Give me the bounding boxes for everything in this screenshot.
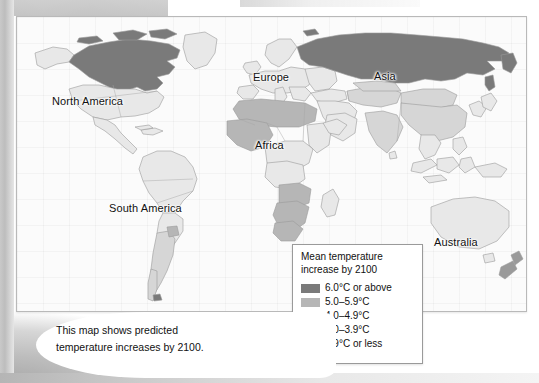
figure-caption: This map shows predicted temperature inc… [56, 322, 306, 356]
region-iberia [237, 85, 259, 99]
figure-stage: .land { stroke:#9b9b9b; stroke-width:.6;… [0, 0, 539, 383]
legend-title: Mean temperature increase by 2100 [301, 251, 415, 276]
region-indonesia-sulawesi [459, 157, 475, 173]
map-panel: .land { stroke:#9b9b9b; stroke-width:.6;… [16, 16, 527, 312]
region-scandinavia [265, 39, 297, 67]
region-arctic-island-3 [77, 36, 103, 44]
region-arctic-island-2 [149, 29, 177, 39]
map-label-north-america: North America [52, 95, 123, 107]
region-paraguay [167, 226, 179, 237]
region-kamchatka [501, 53, 517, 73]
region-philippines [453, 137, 467, 155]
region-sakhalin [485, 75, 495, 91]
region-new-guinea [475, 163, 507, 177]
map-label-australia: Australia [434, 236, 478, 248]
legend-row: 6.0°C or above [301, 281, 415, 295]
map-label-asia: Asia [374, 70, 396, 82]
legend-label-6-0-or-above: 6.0°C or above [325, 281, 392, 295]
region-mexico-central-america [93, 117, 137, 154]
region-tasmania [483, 253, 495, 263]
region-indonesia-sumatra [411, 159, 437, 173]
region-alaska [35, 47, 74, 69]
region-indonesia-java [423, 175, 447, 183]
map-label-south-america: South America [109, 202, 182, 214]
region-svalbard [303, 29, 319, 36]
map-label-europe: Europe [253, 71, 289, 83]
region-sri-lanka [389, 151, 397, 159]
map-label-africa: Africa [255, 139, 284, 151]
legend-title-line2: increase by 2100 [301, 264, 377, 275]
legend-title-line1: Mean temperature [301, 251, 383, 262]
page-scan-band-top-inner [14, 0, 168, 16]
region-eastern-europe [305, 67, 337, 91]
region-greenland [183, 32, 217, 69]
page-scan-ghost-text [240, 0, 420, 7]
legend-swatch-6-0-or-above [301, 284, 320, 293]
region-south-america-patagonia-tip [153, 294, 162, 301]
legend-swatch-5-0-5-9 [301, 298, 320, 307]
world-map-svg: .land { stroke:#9b9b9b; stroke-width:.6;… [17, 17, 526, 311]
region-new-zealand-south [499, 261, 517, 279]
region-indochina [419, 135, 441, 159]
region-india [365, 111, 403, 153]
figure-caption-line2: temperature increases by 2100. [56, 339, 306, 356]
region-indonesia-borneo [437, 157, 459, 173]
region-madagascar [321, 189, 339, 217]
legend-row: 5.0–5.9°C [301, 295, 415, 309]
region-balkans [289, 87, 311, 101]
legend-label-5-0-5-9: 5.0–5.9°C [325, 295, 370, 309]
region-canada [69, 39, 180, 91]
figure-caption-line1: This map shows predicted [56, 322, 306, 339]
page-scan-binding-strip [0, 0, 14, 383]
region-arctic-island-1 [113, 30, 147, 40]
